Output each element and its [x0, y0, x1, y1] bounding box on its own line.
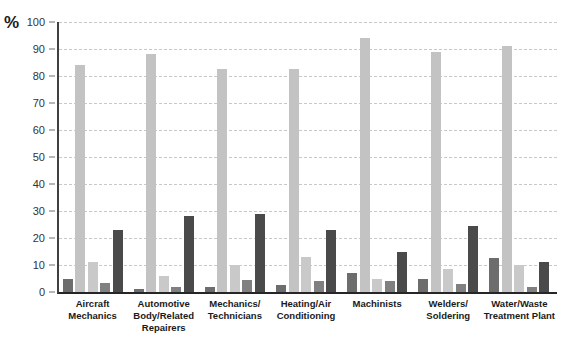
bar [489, 258, 499, 292]
bar [539, 262, 549, 292]
bar-group [63, 22, 123, 292]
bar [527, 287, 537, 292]
y-axis-tick-label: 50 [33, 151, 45, 163]
bar [301, 257, 311, 292]
bar [230, 265, 240, 292]
bar [397, 252, 407, 293]
bar-group [276, 22, 336, 292]
y-axis-tick-mark [49, 22, 55, 23]
y-axis-tick-labels: 1009080706050403020100 [0, 22, 55, 292]
bar [217, 69, 227, 292]
x-axis-category-label-line: Repairers [122, 322, 205, 334]
y-axis-tick-label: 20 [33, 232, 45, 244]
y-axis-tick-label: 0 [39, 286, 45, 298]
bar [360, 38, 370, 292]
bar [255, 214, 265, 292]
x-axis-category-label: Water/WasteTreatment Plant [478, 298, 561, 322]
y-axis-tick-mark [49, 292, 55, 293]
y-axis-tick-label: 60 [33, 124, 45, 136]
bar-group [489, 22, 549, 292]
bar-group [418, 22, 478, 292]
bar [184, 216, 194, 292]
bar [443, 269, 453, 292]
y-axis-tick-mark [49, 265, 55, 266]
bar-group [347, 22, 407, 292]
bar [75, 65, 85, 292]
bar [502, 46, 512, 292]
y-axis-tick-label: 80 [33, 70, 45, 82]
y-axis-tick-mark [49, 49, 55, 50]
x-axis-category-label-line: Treatment Plant [478, 310, 561, 322]
bar [171, 287, 181, 292]
y-axis-tick-label: 90 [33, 43, 45, 55]
bar [205, 287, 215, 292]
bar [385, 281, 395, 292]
bar [242, 280, 252, 292]
bar-group [205, 22, 265, 292]
y-axis-tick-mark [49, 76, 55, 77]
y-axis-tick-label: 70 [33, 97, 45, 109]
bar-chart: % 1009080706050403020100 AircraftMechani… [0, 0, 563, 346]
y-axis-tick-mark [49, 157, 55, 158]
bar [289, 69, 299, 292]
y-axis-tick-label: 10 [33, 259, 45, 271]
bar [456, 284, 466, 292]
bar [63, 279, 73, 293]
bar [372, 279, 382, 293]
bar-group [134, 22, 194, 292]
bar [113, 230, 123, 292]
bar [146, 54, 156, 292]
bar [514, 265, 524, 292]
y-axis-tick-mark [49, 103, 55, 104]
y-axis-tick-mark [49, 211, 55, 212]
y-axis-tick-mark [49, 130, 55, 131]
bars-layer [57, 22, 555, 292]
y-axis-tick-mark [49, 184, 55, 185]
bar [159, 276, 169, 292]
x-axis-category-labels: AircraftMechanicsAutomotiveBody/RelatedR… [57, 298, 555, 346]
bar [326, 230, 336, 292]
bar [468, 226, 478, 292]
bar [100, 283, 110, 292]
y-axis-tick-label: 100 [27, 16, 45, 28]
bar [314, 281, 324, 292]
bar [431, 52, 441, 292]
bar [134, 289, 144, 292]
y-axis-tick-mark [49, 238, 55, 239]
y-axis-tick-label: 40 [33, 178, 45, 190]
x-axis-category-label-line: Conditioning [264, 310, 347, 322]
x-axis-category-label-line: Water/Waste [478, 298, 561, 310]
bar [276, 285, 286, 292]
y-axis-tick-label: 30 [33, 205, 45, 217]
bar [88, 262, 98, 292]
bar [418, 279, 428, 293]
bar [347, 273, 357, 292]
